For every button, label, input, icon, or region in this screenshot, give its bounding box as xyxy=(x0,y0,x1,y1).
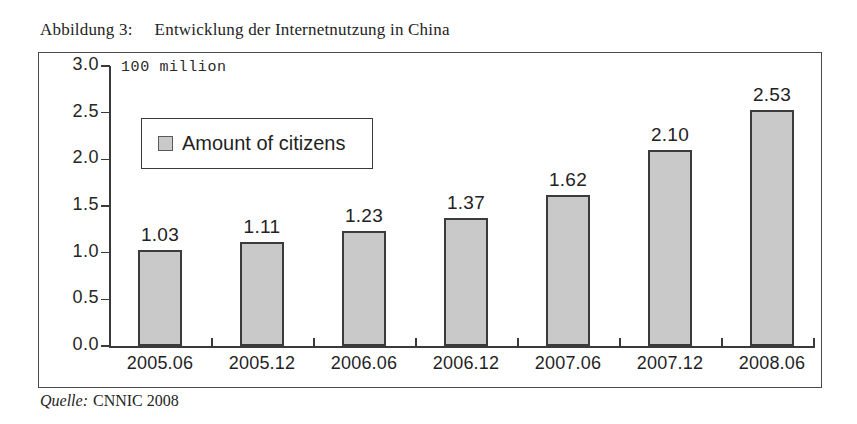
y-axis-tick-label: 3.0 xyxy=(53,54,99,75)
bar xyxy=(138,250,182,346)
source-text: CNNIC 2008 xyxy=(93,392,179,409)
y-axis-tick-label: 0.0 xyxy=(53,334,99,355)
chart-frame: 100 million 3.02.52.01.51.00.50.0 1.0320… xyxy=(38,52,822,388)
x-axis-tick-label: 2007.12 xyxy=(619,353,721,374)
y-axis-unit-label: 100 million xyxy=(121,59,227,76)
x-axis-tick xyxy=(619,338,621,347)
legend-swatch-icon xyxy=(158,136,173,151)
bar-value-label: 1.03 xyxy=(125,224,195,246)
x-axis-end-tick xyxy=(813,338,815,347)
bar xyxy=(546,195,590,346)
x-axis-tick-label: 2008.06 xyxy=(721,353,823,374)
x-axis-tick-label: 2006.06 xyxy=(313,353,415,374)
source-line: Quelle:CNNIC 2008 xyxy=(40,392,179,410)
x-axis-tick-label: 2005.06 xyxy=(109,353,211,374)
y-axis-tick xyxy=(101,205,110,207)
bar-value-label: 2.10 xyxy=(635,124,705,146)
y-axis-tick xyxy=(101,65,110,67)
source-prefix: Quelle: xyxy=(40,392,88,409)
x-axis-tick xyxy=(211,338,213,347)
bar xyxy=(240,242,284,346)
y-axis-tick-label: 1.0 xyxy=(53,241,99,262)
y-axis-tick-label: 2.5 xyxy=(53,101,99,122)
x-axis-tick xyxy=(415,338,417,347)
plot-area: 100 million 3.02.52.01.51.00.50.0 1.0320… xyxy=(39,53,821,387)
chart-legend: Amount of citizens xyxy=(141,118,373,169)
figure-caption-title: Entwicklung der Internetnutzung in China xyxy=(155,20,450,39)
y-axis-tick xyxy=(101,252,110,254)
y-axis-tick-label: 1.5 xyxy=(53,194,99,215)
x-axis-line xyxy=(109,346,815,348)
x-axis-tick-label: 2007.06 xyxy=(517,353,619,374)
y-axis-tick xyxy=(101,159,110,161)
bar-value-label: 1.37 xyxy=(431,192,501,214)
y-axis-tick-label: 2.0 xyxy=(53,147,99,168)
y-axis-tick-label: 0.5 xyxy=(53,287,99,308)
bar-value-label: 2.53 xyxy=(737,84,807,106)
legend-label: Amount of citizens xyxy=(182,132,345,155)
figure-caption: Abbildung 3:Entwicklung der Internetnutz… xyxy=(40,20,450,40)
bar xyxy=(750,110,794,346)
x-axis-tick xyxy=(313,338,315,347)
x-axis-tick-label: 2005.12 xyxy=(211,353,313,374)
y-axis-tick xyxy=(101,299,110,301)
bar-value-label: 1.11 xyxy=(227,216,297,238)
bar-value-label: 1.62 xyxy=(533,169,603,191)
bar xyxy=(648,150,692,346)
x-axis-tick xyxy=(517,338,519,347)
x-axis-tick xyxy=(721,338,723,347)
y-axis-tick xyxy=(101,112,110,114)
x-axis-tick-label: 2006.12 xyxy=(415,353,517,374)
bar xyxy=(342,231,386,346)
bar-value-label: 1.23 xyxy=(329,205,399,227)
bar xyxy=(444,218,488,346)
figure-caption-label: Abbildung 3: xyxy=(40,20,133,40)
y-axis-tick xyxy=(101,345,110,347)
